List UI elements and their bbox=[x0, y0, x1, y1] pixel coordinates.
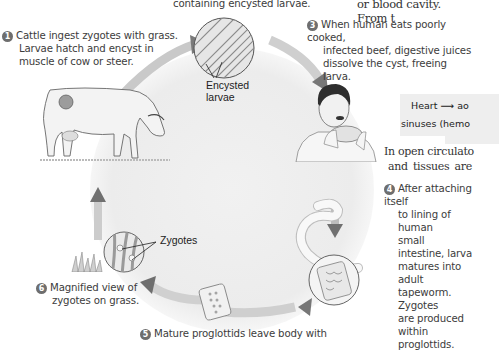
step-badge: 3 bbox=[307, 20, 318, 31]
proglottid-icon bbox=[198, 282, 234, 322]
grass-icon bbox=[70, 250, 104, 272]
step-badge: 6 bbox=[36, 283, 47, 294]
encysted-larvae-label: Encysted larvae bbox=[206, 79, 249, 103]
circulation-box: Heart ⟶ ao sinuses (hemo bbox=[400, 94, 473, 136]
zygotes-pointer-lines bbox=[118, 240, 158, 264]
step-badge: 5 bbox=[140, 329, 151, 340]
body-text-line: and tissues are bbox=[388, 160, 472, 173]
arrow-right-icon: ⟶ bbox=[440, 100, 454, 111]
tapeworm-illustration bbox=[268, 196, 383, 308]
step-4-caption: 4After attaching itself to lining of hum… bbox=[384, 182, 473, 351]
zygotes-label: Zygotes bbox=[160, 234, 197, 246]
step-5-caption: 5Mature proglottids leave body with bbox=[140, 327, 327, 340]
top-caption-fragment: containing encysted larvae. bbox=[173, 0, 310, 10]
step-3-caption: 3When human eats poorly cooked, infected… bbox=[307, 18, 473, 83]
step-6-caption: 6Magnified view of zygotes on grass. bbox=[36, 281, 139, 307]
step-badge: 4 bbox=[384, 184, 395, 195]
step-1-caption: 1Cattle ingest zygotes with grass. Larva… bbox=[2, 29, 178, 68]
muscle-magnified-icon bbox=[192, 16, 256, 80]
human-eating-illustration bbox=[290, 78, 380, 162]
body-text-line: In open circulato bbox=[384, 145, 474, 158]
cow-illustration bbox=[40, 84, 170, 166]
step-badge: 1 bbox=[2, 31, 13, 42]
